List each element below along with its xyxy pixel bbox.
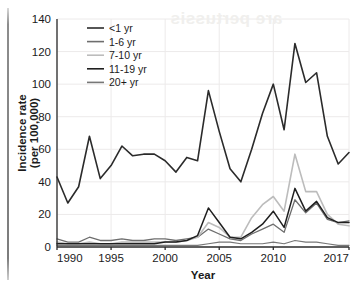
y-tick-label: 100: [32, 78, 51, 90]
y-tick-label: 140: [32, 13, 51, 25]
y-axis-title-line1: Incidence rate: [16, 94, 28, 171]
x-tick-label: 1995: [98, 252, 124, 264]
x-tick-label: 1990: [57, 252, 83, 264]
x-tick-label: 2000: [152, 252, 178, 264]
x-tick-label: 2010: [260, 252, 286, 264]
x-axis-title: Year: [191, 269, 216, 281]
series-group: [57, 43, 349, 245]
legend-label-1: 1-6 yr: [109, 36, 136, 48]
x-axis-ticks: 199019952000200520102017: [57, 247, 349, 264]
page-gutter-artifact: [7, 8, 9, 280]
y-tick-label: 0: [45, 241, 51, 253]
series-line-0: [57, 43, 349, 203]
series-line-4: [57, 240, 349, 245]
y-tick-label: 60: [38, 143, 51, 155]
y-tick-label: 80: [38, 111, 51, 123]
chart-legend: <1 yr1-6 yr7-10 yr11-19 yr20+ yr: [87, 22, 147, 88]
x-tick-label: 2005: [206, 252, 232, 264]
y-axis-title-line2: (per 100,000): [28, 98, 40, 168]
y-tick-label: 20: [38, 208, 51, 220]
legend-label-4: 20+ yr: [109, 76, 139, 88]
incidence-rate-line-chart: 020406080100120140 199019952000200520102…: [0, 0, 356, 286]
series-line-2: [57, 154, 349, 244]
legend-label-0: <1 yr: [109, 22, 133, 34]
y-tick-label: 120: [32, 46, 51, 58]
legend-label-3: 11-19 yr: [109, 63, 147, 75]
x-tick-label: 2017: [323, 252, 349, 264]
y-tick-label: 40: [38, 176, 51, 188]
legend-label-2: 7-10 yr: [109, 49, 142, 61]
series-line-3: [57, 188, 349, 243]
figure-container: are pertussis 020406080100120140 1990199…: [0, 0, 356, 286]
